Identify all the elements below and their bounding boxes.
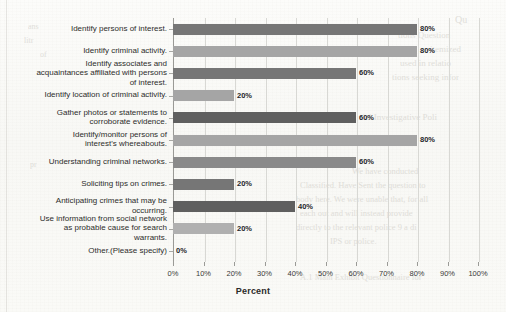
x-axis-tick-label: 0% xyxy=(168,269,179,278)
bar xyxy=(173,24,417,35)
bar xyxy=(173,90,234,101)
x-axis-tick-label: 70% xyxy=(379,269,394,278)
x-axis-tick xyxy=(417,262,418,266)
x-axis-tick xyxy=(478,262,479,266)
bar-value-label: 20% xyxy=(237,92,252,100)
x-axis-tick-label: 10% xyxy=(196,269,211,278)
x-axis-title: Percent xyxy=(0,286,506,296)
bar-value-label: 20% xyxy=(237,180,252,188)
category-label: Identify persons of interest. xyxy=(71,24,167,34)
bar xyxy=(173,68,356,79)
x-axis-tick xyxy=(387,262,388,266)
bar-value-label: 60% xyxy=(359,114,374,122)
bar-value-label: 60% xyxy=(359,158,374,166)
x-axis-tick xyxy=(448,262,449,266)
category-label: Gather photos or statements to corrobora… xyxy=(57,108,167,127)
bar xyxy=(173,179,234,190)
category-label: Understanding criminal networks. xyxy=(49,157,167,167)
bar xyxy=(173,201,295,212)
category-label: Other.(Please specify) xyxy=(88,246,167,256)
category-label: Identify/monitor persons of interest's w… xyxy=(73,130,167,149)
x-axis-tick xyxy=(234,262,235,266)
x-axis-tick-label: 60% xyxy=(348,269,363,278)
bar-value-label: 80% xyxy=(420,47,435,55)
category-axis-labels: Identify persons of interest.Identify cr… xyxy=(0,0,171,312)
category-label: Anticipating crimes that may be occurrin… xyxy=(56,196,167,215)
x-axis-tick-label: 90% xyxy=(440,269,455,278)
bar-value-label: 60% xyxy=(359,69,374,77)
x-axis-tick-label: 30% xyxy=(257,269,272,278)
bar-value-label: 0% xyxy=(176,247,187,255)
bar xyxy=(173,157,356,168)
x-axis-tick xyxy=(356,262,357,266)
bar-value-label: 80% xyxy=(420,136,435,144)
gridline xyxy=(418,18,419,262)
scanned-page: Qutions Questionitemizedused in relatiot… xyxy=(0,0,506,312)
x-axis-tick xyxy=(265,262,266,266)
bar xyxy=(173,46,417,57)
bar-value-label: 40% xyxy=(298,203,313,211)
bar xyxy=(173,223,234,234)
gridline xyxy=(479,18,480,262)
gridline xyxy=(449,18,450,262)
category-label: Identify associates and acquaintances af… xyxy=(36,59,167,88)
x-axis-tick xyxy=(326,262,327,266)
x-axis-tick xyxy=(295,262,296,266)
bar-value-label: 20% xyxy=(237,225,252,233)
x-axis-tick-label: 40% xyxy=(287,269,302,278)
x-axis-tick xyxy=(204,262,205,266)
category-label: Soliciting tips on crimes. xyxy=(81,179,167,189)
x-axis-tick-label: 50% xyxy=(318,269,333,278)
bar xyxy=(173,135,417,146)
category-label: Identify location of criminal activity. xyxy=(44,90,167,100)
x-axis-tick-label: 100% xyxy=(468,269,487,278)
x-axis-tick-label: 20% xyxy=(226,269,241,278)
category-label: Use information from social network as p… xyxy=(40,214,167,243)
horizontal-bar-chart: Identify persons of interest.Identify cr… xyxy=(0,0,506,312)
x-axis-tick-label: 80% xyxy=(409,269,424,278)
bar xyxy=(173,112,356,123)
bar-value-label: 80% xyxy=(420,25,435,33)
x-axis-tick xyxy=(173,262,174,266)
category-label: Identify criminal activity. xyxy=(83,46,167,56)
